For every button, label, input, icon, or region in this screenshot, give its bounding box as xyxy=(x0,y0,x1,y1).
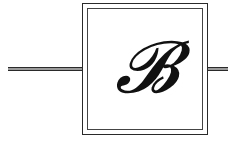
block-label: 𝓑 xyxy=(115,31,179,103)
output-line xyxy=(208,67,228,71)
block-inner-border: 𝓑 xyxy=(87,8,203,130)
input-line xyxy=(8,67,83,71)
block-b: 𝓑 xyxy=(82,3,208,135)
